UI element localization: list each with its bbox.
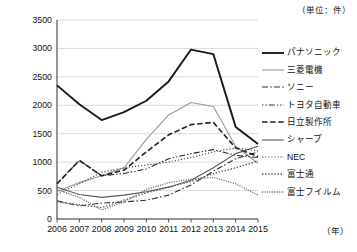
- y-tick-label: 3000: [8, 43, 52, 53]
- legend-label: NEC: [287, 153, 305, 162]
- series-line: [57, 148, 258, 195]
- y-tick-label: 3500: [8, 15, 52, 25]
- x-tick-label: 2014: [226, 224, 246, 234]
- series-line: [57, 50, 258, 144]
- legend-item[interactable]: パナソニック: [262, 44, 357, 61]
- legend-label: トヨタ自動車: [287, 101, 341, 110]
- legend-label: 富士通: [287, 170, 314, 179]
- legend-line-swatch: [262, 187, 284, 197]
- x-tick-label: 2008: [92, 224, 112, 234]
- y-tick-label: 2000: [8, 100, 52, 110]
- x-tick-label: 2013: [204, 224, 224, 234]
- y-tick-label: 1500: [8, 129, 52, 139]
- legend-label: パナソニック: [287, 48, 341, 57]
- legend-label: シャープ: [287, 135, 322, 144]
- legend-item[interactable]: 富士フイルム: [262, 183, 357, 200]
- y-axis-ticks: 0500100015002000250030003500: [0, 0, 52, 252]
- series-line: [57, 161, 258, 208]
- x-tick-label: 2007: [70, 224, 90, 234]
- legend-line-swatch: [262, 152, 284, 162]
- x-axis-unit: （年）: [322, 224, 349, 236]
- series-line: [57, 177, 258, 209]
- legend-item[interactable]: 三菱電機: [262, 61, 357, 78]
- x-tick-label: 2006: [47, 224, 67, 234]
- legend-label: 富士フイルム: [287, 188, 341, 197]
- legend-label: 日立製作所: [287, 118, 332, 127]
- series-line: [57, 152, 258, 206]
- legend-item[interactable]: 日立製作所: [262, 114, 357, 131]
- legend-line-swatch: [262, 100, 284, 110]
- legend-item[interactable]: トヨタ自動車: [262, 96, 357, 113]
- line-chart: （単位：件） 0500100015002000250030003500 2006…: [0, 0, 357, 252]
- legend-label: ソニー: [287, 83, 314, 92]
- y-tick-label: 1000: [8, 157, 52, 167]
- legend-line-swatch: [262, 169, 284, 179]
- legend-item[interactable]: 富士通: [262, 166, 357, 183]
- x-tick-label: 2011: [159, 224, 178, 234]
- legend-line-swatch: [262, 65, 284, 75]
- legend-item[interactable]: シャープ: [262, 131, 357, 148]
- legend: パナソニック三菱電機ソニートヨタ自動車日立製作所シャープNEC富士通富士フイルム: [262, 44, 357, 201]
- legend-item[interactable]: NEC: [262, 148, 357, 165]
- legend-line-swatch: [262, 117, 284, 127]
- legend-label: 三菱電機: [287, 66, 323, 75]
- x-tick-label: 2015: [248, 224, 268, 234]
- x-tick-label: 2012: [181, 224, 201, 234]
- legend-line-swatch: [262, 135, 284, 145]
- y-tick-label: 500: [8, 186, 52, 196]
- legend-line-swatch: [262, 48, 284, 58]
- legend-line-swatch: [262, 82, 284, 92]
- series-line: [57, 102, 258, 191]
- x-tick-label: 2009: [114, 224, 134, 234]
- legend-item[interactable]: ソニー: [262, 79, 357, 96]
- y-tick-label: 2500: [8, 72, 52, 82]
- x-tick-label: 2010: [137, 224, 157, 234]
- y-tick-label: 0: [8, 214, 52, 224]
